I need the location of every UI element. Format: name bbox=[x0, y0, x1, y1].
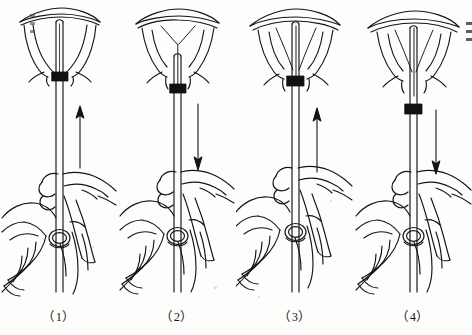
lower-hand-3 bbox=[236, 197, 323, 290]
scan-artifact bbox=[30, 22, 35, 25]
pull-down-arrow-2 bbox=[194, 104, 202, 170]
panel-step-4: （4） bbox=[354, 0, 472, 335]
depth-flange-marker-2 bbox=[170, 84, 186, 93]
inserter-ring-4 bbox=[403, 228, 424, 246]
lower-hand-4 bbox=[356, 201, 442, 294]
pull-down-arrow-4 bbox=[432, 110, 440, 174]
scan-speck bbox=[330, 200, 332, 202]
scan-artifact bbox=[466, 22, 472, 25]
iud-in-place-4 bbox=[395, 28, 433, 96]
scan-artifact bbox=[30, 14, 35, 17]
lower-hand-1 bbox=[2, 203, 88, 296]
upper-hand-2 bbox=[157, 170, 234, 260]
push-up-arrow-3 bbox=[313, 108, 321, 172]
scan-speck bbox=[214, 286, 217, 289]
panel-step-3: （3） bbox=[236, 0, 354, 335]
upper-hand-1 bbox=[39, 172, 116, 262]
inserter-tube-4 bbox=[410, 26, 417, 292]
panel-1-caption: （1） bbox=[0, 306, 118, 325]
depth-flange-marker-4 bbox=[405, 104, 422, 114]
panel-3-caption: （3） bbox=[236, 306, 354, 325]
panel-2-caption: （2） bbox=[118, 306, 236, 325]
scan-artifact bbox=[466, 38, 472, 41]
inserter-ring-1 bbox=[49, 230, 70, 248]
panel-step-1: （1） bbox=[0, 0, 118, 335]
panel-4-caption: （4） bbox=[354, 306, 472, 325]
depth-flange-marker-3 bbox=[287, 76, 304, 86]
scan-artifact bbox=[466, 30, 472, 33]
inserter-tube-3 bbox=[292, 22, 299, 292]
iud-insertion-figure: （1） bbox=[0, 0, 472, 335]
panel-step-2: （2） bbox=[118, 0, 236, 335]
scan-artifact bbox=[30, 30, 35, 33]
iud-t-arms-3 bbox=[276, 26, 316, 80]
lower-hand-2 bbox=[120, 201, 206, 294]
upper-hand-3 bbox=[273, 166, 352, 256]
panel-2-illustration bbox=[118, 0, 236, 312]
scan-speck bbox=[258, 296, 260, 298]
upper-hand-4 bbox=[392, 170, 471, 260]
panel-4-illustration bbox=[354, 0, 472, 312]
push-up-arrow-1 bbox=[76, 106, 84, 168]
depth-flange-marker-1 bbox=[52, 72, 68, 81]
scan-speck bbox=[92, 246, 94, 248]
uterus-outline-4 bbox=[368, 11, 459, 93]
inserter-ring-2 bbox=[167, 228, 188, 246]
panel-1-illustration bbox=[0, 0, 118, 312]
panel-3-illustration bbox=[236, 0, 354, 312]
